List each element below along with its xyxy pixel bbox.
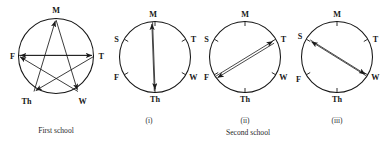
panel-iii-tick-t (364, 39, 368, 41)
panel-ii-tick-s (214, 39, 218, 41)
star-edge-t-th (36, 57, 94, 91)
first-school-diagram: M T W Th F First school (10, 6, 104, 135)
panel-i-label-m: M (149, 10, 157, 19)
pentagram-star (19, 20, 94, 92)
first-school-vertex-label-w: W (78, 97, 87, 106)
panel-i-tick-f (124, 73, 128, 75)
panel-ii-label-t: T (281, 35, 287, 44)
first-school-vertex-label-m: M (52, 6, 60, 15)
panel-iii-chord-to-w (310, 40, 365, 74)
panel-ii-tick-w (272, 73, 276, 75)
panel-ii-label-s: S (204, 35, 209, 44)
diagram-figure: M T W Th F First school M S T F W Th (0, 0, 389, 146)
panel-iii-caption: (iii) (331, 116, 343, 125)
panel-i-label-th: Th (150, 95, 160, 104)
panel-iii-label-t: T (373, 35, 379, 44)
first-school-caption: First school (38, 126, 74, 135)
panel-i-tick-w (182, 73, 186, 75)
panel-iii-chord-to-s (312, 42, 367, 76)
star-edge-m-w (56, 20, 77, 90)
panel-ii-tick-f (214, 73, 218, 75)
second-school-panel-iii: M S T F W Th (iii) (296, 10, 380, 124)
panel-iii-label-f: F (296, 75, 301, 84)
panel-i-label-s: S (114, 35, 119, 44)
second-school-caption: Second school (226, 128, 270, 137)
panel-ii-chord-to-f (218, 43, 275, 77)
panel-i-tick-t (182, 39, 186, 41)
panel-iii-label-m: M (333, 10, 341, 19)
second-school-panel-ii: M S T F W Th (ii) Second school (204, 10, 288, 136)
figure-canvas: M T W Th F First school M S T F W Th (0, 0, 389, 146)
panel-iii-tick-f (306, 73, 310, 75)
second-school-panel-i: M S T F W Th (i) (114, 10, 198, 124)
panel-i-tick-s (124, 39, 128, 41)
first-school-vertex-label-f: F (10, 52, 15, 61)
panel-iii-label-s: S (298, 32, 303, 41)
first-school-vertex-label-th: Th (21, 97, 31, 106)
first-school-circle (19, 19, 94, 94)
panel-ii-label-th: Th (240, 95, 250, 104)
panel-i-label-t: T (191, 35, 197, 44)
panel-i-label-f: F (114, 73, 119, 82)
panel-i-label-w: W (189, 73, 198, 82)
panel-iii-label-th: Th (332, 95, 342, 104)
panel-ii-label-m: M (241, 10, 249, 19)
first-school-vertex-label-t: T (99, 52, 105, 61)
panel-ii-caption: (ii) (240, 116, 250, 125)
panel-ii-label-f: F (204, 73, 209, 82)
panel-ii-label-w: W (279, 73, 288, 82)
panel-i-caption: (i) (146, 116, 154, 125)
panel-ii-circle (210, 22, 281, 93)
panel-ii-chord-to-t (216, 41, 272, 76)
star-edge-w-f (20, 57, 78, 92)
panel-iii-label-w: W (371, 73, 380, 82)
panel-iii-tick-s (306, 39, 310, 41)
